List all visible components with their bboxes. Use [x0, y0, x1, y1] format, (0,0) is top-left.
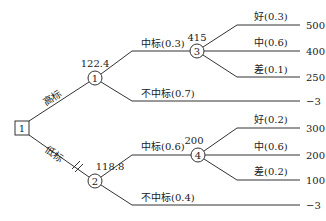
- branch-high-bid-line: [29, 82, 89, 121]
- payoff-value: 200: [306, 150, 325, 161]
- payoff-value: 300: [306, 123, 325, 134]
- branch-low-bid-label: 低标: [43, 143, 66, 164]
- payoff-value: 500: [306, 20, 325, 31]
- outcome-win-high-line: [101, 51, 191, 74]
- payoff-value: −3: [306, 200, 321, 211]
- chance-node-label: 1: [92, 73, 98, 84]
- expected-value-node-4: 200: [184, 135, 203, 146]
- outcome-win-low-label: 中标(0.6): [141, 140, 185, 152]
- chance-node-label: 3: [194, 46, 200, 57]
- chance-node-2: 2: [88, 174, 102, 188]
- payoff-value: −3: [306, 96, 321, 107]
- payoff-value: 400: [306, 46, 325, 57]
- chance-node-label: 4: [195, 150, 201, 161]
- outcome-win-high-label: 中标(0.3): [141, 37, 185, 49]
- decision-node-label: 1: [19, 123, 25, 134]
- payoff-value: 100: [306, 175, 325, 186]
- decision-node-root: 1: [15, 121, 29, 135]
- chance-node-4: 4: [191, 148, 205, 162]
- outcome-lose-low-label: 不中标(0.4): [141, 191, 195, 203]
- result-label: 差(0.2): [254, 165, 288, 177]
- result-label: 好(0.3): [254, 11, 288, 22]
- chance-node-1: 1: [88, 71, 102, 85]
- expected-value-node-1: 122.4: [81, 58, 110, 69]
- result-label: 中(0.6): [254, 36, 288, 48]
- outcome-lose-low-line: [101, 185, 300, 205]
- result-label: 差(0.1): [254, 63, 288, 75]
- result-label: 好(0.2): [254, 114, 288, 125]
- outcome-lose-high-label: 不中标(0.7): [141, 87, 195, 99]
- chance-node-label: 2: [92, 176, 98, 187]
- chance-node-3: 3: [190, 44, 204, 58]
- expected-value-node-3: 415: [187, 32, 206, 43]
- decision-tree-diagram: 1 高标 低标 1 122.4 中标(0.3) 不中标(0.7) −3 3 41…: [0, 0, 326, 221]
- payoff-value: 250: [306, 72, 325, 83]
- branch-high-bid-label: 高标: [41, 87, 64, 108]
- result-label: 中(0.6): [254, 140, 288, 152]
- outcome-lose-high-line: [101, 82, 300, 101]
